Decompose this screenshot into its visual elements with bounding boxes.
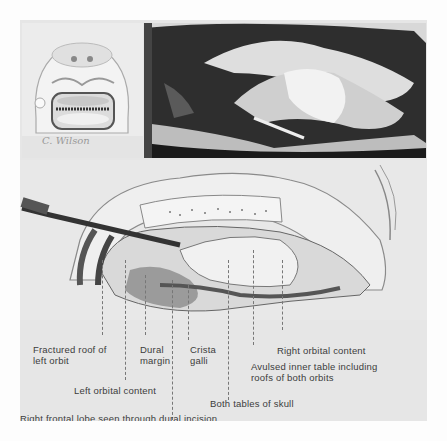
label-right-frontal-lobe: Right frontal lobe seen through dural in… <box>20 413 217 421</box>
leader-line <box>188 285 189 340</box>
label-both-tables-of-skull: Both tables of skull <box>210 398 294 409</box>
operative-photograph <box>144 23 426 158</box>
leader-line <box>102 260 103 335</box>
leader-line <box>253 250 254 345</box>
label-dural-margin: Dural margin <box>140 344 170 366</box>
label-text: Left orbital content <box>74 385 156 396</box>
label-line: galli <box>190 355 216 366</box>
label-right-orbital-content: Right orbital content <box>277 345 366 356</box>
label-line: roofs of both orbits <box>251 372 378 383</box>
label-line: margin <box>140 355 170 366</box>
label-line: Crista <box>190 344 216 355</box>
leader-line <box>228 260 229 400</box>
label-line: Fractured roof of <box>33 344 107 355</box>
leader-line <box>145 275 146 335</box>
label-line: Dural <box>140 344 170 355</box>
figure-panel: C. Wilson <box>20 20 427 421</box>
leader-line <box>125 260 126 380</box>
skull-model-drawing: C. Wilson <box>22 23 143 158</box>
label-line: Avulsed inner table including <box>251 361 378 372</box>
label-avulsed-inner-table: Avulsed inner table including roofs of b… <box>251 361 378 383</box>
leader-line <box>282 260 283 330</box>
label-left-orbital-content: Left orbital content <box>74 385 156 396</box>
label-text: Right orbital content <box>277 345 366 356</box>
leader-line <box>172 280 173 420</box>
surgical-drawing <box>20 160 427 320</box>
artist-signature: C. Wilson <box>42 135 90 146</box>
label-text: Right frontal lobe seen through dural in… <box>20 413 217 421</box>
label-text: Both tables of skull <box>210 398 294 409</box>
label-line: left orbit <box>33 355 107 366</box>
label-fractured-roof-left-orbit: Fractured roof of left orbit <box>33 344 107 366</box>
label-crista-galli: Crista galli <box>190 344 216 366</box>
